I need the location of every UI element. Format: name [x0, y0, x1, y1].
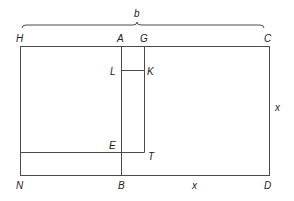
label-T: T — [148, 151, 155, 162]
label-N: N — [16, 180, 24, 191]
label-H: H — [16, 33, 24, 44]
label-B: B — [118, 180, 125, 191]
label-G: G — [140, 33, 148, 44]
label-C: C — [264, 33, 272, 44]
label-K: K — [147, 66, 155, 77]
brace-b — [22, 22, 264, 28]
label-D: D — [264, 180, 271, 191]
label-A: A — [116, 33, 124, 44]
label-E: E — [109, 140, 116, 151]
geometry-diagram: b H A G C L K E T N B x D x — [0, 0, 294, 201]
label-x-right: x — [274, 102, 281, 113]
label-b: b — [134, 8, 140, 19]
label-x-bottom: x — [191, 180, 198, 191]
label-L: L — [110, 66, 116, 77]
